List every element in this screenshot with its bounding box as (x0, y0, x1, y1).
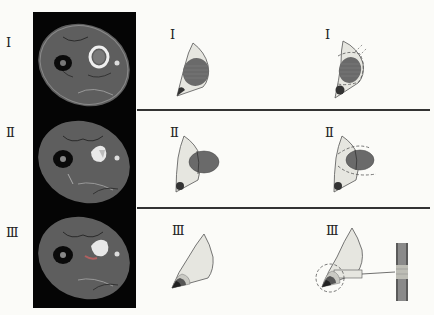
mri-image-stage-1 (33, 15, 136, 111)
compartment-schematic-stage-1 (165, 40, 225, 102)
compartment-schematic-stage-3 (168, 232, 228, 294)
resection-schematic-stage-3 (312, 225, 434, 305)
mri-panel (33, 12, 136, 308)
resection-schematic-stage-1 (333, 38, 393, 102)
mri-label-stage-3: Ⅲ (6, 226, 18, 239)
mri-image-stage-3 (33, 210, 136, 306)
divider-row-2 (137, 207, 430, 209)
mri-image-stage-2 (33, 114, 136, 210)
staging-figure: Ⅰ Ⅱ Ⅲ (0, 0, 434, 315)
divider-row-1 (137, 109, 430, 111)
resection-label-stage-1: Ⅰ (325, 28, 329, 41)
compartment-schematic-stage-2 (172, 134, 234, 196)
mri-label-stage-2: Ⅱ (6, 126, 14, 139)
mri-label-stage-1: Ⅰ (6, 36, 10, 49)
resection-schematic-stage-2 (330, 134, 400, 196)
